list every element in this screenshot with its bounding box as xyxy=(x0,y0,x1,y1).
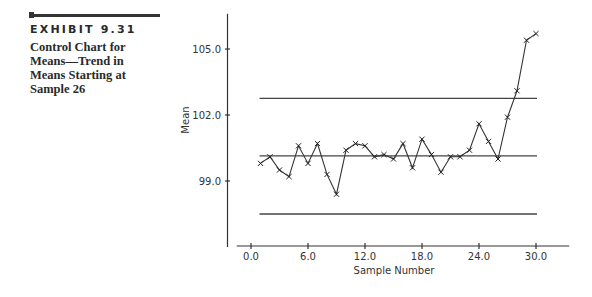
x-tick-label: 6.0 xyxy=(300,251,316,262)
y-axis-title: Mean xyxy=(180,106,191,133)
series-line-sample-means xyxy=(261,34,537,195)
x-tick-label: 18.0 xyxy=(411,251,433,262)
x-tick-label: 0.0 xyxy=(243,251,259,262)
control-limits xyxy=(260,98,538,214)
data-point xyxy=(438,170,443,175)
data-point xyxy=(391,156,396,161)
control-chart: 99.0102.0105.0 0.06.012.018.024.030.0 Me… xyxy=(0,0,592,297)
data-point xyxy=(277,167,282,172)
data-point xyxy=(400,141,405,146)
data-point xyxy=(258,161,263,166)
y-ticks: 99.0102.0105.0 xyxy=(192,44,230,187)
data-point xyxy=(467,148,472,153)
data-point xyxy=(533,31,538,36)
y-tick-label: 99.0 xyxy=(199,176,221,187)
axes xyxy=(228,14,570,247)
x-tick-label: 24.0 xyxy=(468,251,490,262)
data-point xyxy=(476,121,481,126)
x-tick-label: 12.0 xyxy=(354,251,376,262)
y-tick-label: 102.0 xyxy=(192,110,221,121)
data-point xyxy=(486,139,491,144)
data-point xyxy=(267,154,272,159)
data-point xyxy=(419,137,424,142)
data-markers xyxy=(258,31,539,197)
data-point xyxy=(410,165,415,170)
x-axis-title: Sample Number xyxy=(354,265,436,276)
y-tick-label: 105.0 xyxy=(192,44,221,55)
x-tick-label: 30.0 xyxy=(525,251,547,262)
data-point xyxy=(305,161,310,166)
